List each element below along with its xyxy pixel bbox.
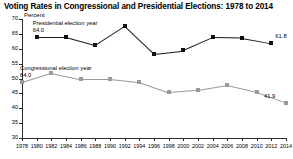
data-point <box>20 80 24 84</box>
series-line-segment <box>81 79 110 80</box>
data-point <box>64 35 68 39</box>
x-tick-mark <box>110 138 111 141</box>
x-tick-mark <box>81 138 82 141</box>
series-line-segment <box>51 73 81 80</box>
x-tick-label: 1998 <box>163 143 175 150</box>
y-tick-label: 35 <box>12 119 18 126</box>
x-tick-label: 2000 <box>177 143 189 150</box>
x-tick-mark <box>183 138 184 141</box>
y-tick-mark <box>19 123 22 124</box>
y-tick-mark <box>19 108 22 109</box>
y-axis-unit-label: Percent <box>24 12 45 18</box>
congressional-series-label: Congressional election year <box>20 65 92 72</box>
x-tick-label: 2014 <box>280 143 292 150</box>
x-tick-label: 1978 <box>16 143 28 150</box>
series-line-segment <box>198 85 228 91</box>
data-point <box>93 43 97 47</box>
x-tick-mark <box>51 138 52 141</box>
x-tick-label: 1988 <box>89 143 101 150</box>
data-point <box>196 88 200 92</box>
series-line-segment <box>227 85 257 93</box>
series-line-segment <box>242 38 272 45</box>
x-tick-label: 2012 <box>265 143 277 150</box>
data-point <box>284 101 288 105</box>
y-tick-label: 30 <box>12 134 18 141</box>
data-point <box>211 35 215 39</box>
data-point <box>269 41 273 45</box>
x-tick-mark <box>198 138 199 141</box>
x-tick-mark <box>213 138 214 141</box>
data-point <box>240 36 244 40</box>
congressional-first-value: 64.0 <box>20 72 31 79</box>
y-tick-mark <box>19 49 22 50</box>
presidential-last-value: 61.8 <box>275 33 286 40</box>
x-tick-mark <box>286 138 287 141</box>
x-tick-label: 2010 <box>251 143 263 150</box>
x-tick-mark <box>37 138 38 141</box>
series-line-segment <box>95 26 125 46</box>
x-tick-mark <box>22 138 23 141</box>
x-tick-label: 1986 <box>75 143 87 150</box>
data-point <box>123 24 127 28</box>
x-tick-label: 1982 <box>45 143 57 150</box>
x-tick-mark <box>139 138 140 141</box>
x-tick-mark <box>271 138 272 141</box>
x-tick-label: 1990 <box>104 143 116 150</box>
x-tick-mark <box>242 138 243 141</box>
x-tick-label: 2004 <box>207 143 219 150</box>
x-tick-mark <box>125 138 126 141</box>
y-tick-label: 45 <box>12 89 18 96</box>
chart-title: Voting Rates in Congressional and Presid… <box>4 2 292 12</box>
y-tick-mark <box>19 93 22 94</box>
x-tick-label: 1996 <box>148 143 160 150</box>
series-line-segment <box>154 50 183 55</box>
x-tick-label: 1980 <box>31 143 43 150</box>
x-tick-mark <box>257 138 258 141</box>
data-point <box>167 90 171 94</box>
y-tick-label: 55 <box>12 60 18 67</box>
series-line-segment <box>66 37 96 46</box>
presidential-first-value: 64.0 <box>33 27 44 34</box>
x-tick-label: 2008 <box>236 143 248 150</box>
x-tick-label: 1994 <box>133 143 145 150</box>
y-tick-mark <box>19 19 22 20</box>
series-line-segment <box>183 37 213 51</box>
x-tick-mark <box>95 138 96 141</box>
data-point <box>35 35 39 39</box>
series-line-segment <box>110 79 139 83</box>
chart-container: Voting Rates in Congressional and Presid… <box>0 0 293 159</box>
x-tick-label: 2006 <box>221 143 233 150</box>
y-tick-label: 70 <box>12 15 18 22</box>
series-line-segment <box>139 82 169 94</box>
series-line-segment <box>169 90 198 94</box>
x-tick-label: 1992 <box>119 143 131 150</box>
x-tick-mark <box>169 138 170 141</box>
y-tick-label: 65 <box>12 30 18 37</box>
y-tick-label: 50 <box>12 75 18 82</box>
y-tick-label: 60 <box>12 45 18 52</box>
x-tick-mark <box>227 138 228 141</box>
data-point <box>137 80 141 84</box>
data-point <box>255 90 259 94</box>
data-point <box>225 83 229 87</box>
x-tick-mark <box>154 138 155 141</box>
series-line-segment <box>37 37 66 38</box>
series-line-segment <box>213 37 242 39</box>
series-line-segment <box>124 26 154 55</box>
x-tick-label: 1984 <box>60 143 72 150</box>
data-point <box>79 77 83 81</box>
x-tick-label: 2002 <box>192 143 204 150</box>
plot-area: 303540455055606570 197819801982198419861… <box>22 19 286 138</box>
y-tick-label: 40 <box>12 104 18 111</box>
data-point <box>152 52 156 56</box>
presidential-series-label: Presidential election year <box>33 20 98 27</box>
congressional-last-value: 41.9 <box>264 93 275 100</box>
data-point <box>181 48 185 52</box>
x-tick-mark <box>66 138 67 141</box>
y-tick-mark <box>19 34 22 35</box>
data-point <box>108 77 112 81</box>
